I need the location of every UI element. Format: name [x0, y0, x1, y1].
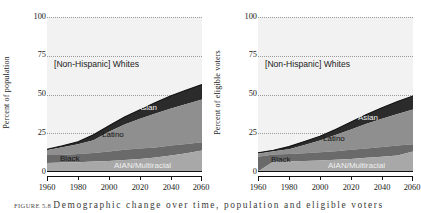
- x-axis-line-right: [258, 171, 413, 172]
- x-label-2000: 2000: [305, 183, 335, 192]
- x-tick-2000: [320, 176, 321, 180]
- y-axis-ticks-left: 100 75 50 25 0: [14, 0, 46, 200]
- stacked-areas-population: [47, 17, 202, 172]
- x-label-1960: 1960: [32, 183, 62, 192]
- x-label-1960: 1960: [243, 183, 273, 192]
- series-label-whites-eligible-voters: [Non-Hispanic] Whites: [265, 59, 350, 69]
- x-axis-bar: [47, 176, 202, 177]
- x-tick-2020: [351, 176, 352, 180]
- series-label-asian-population: Asian: [137, 103, 157, 112]
- plot-area-eligible-voters: [Non-Hispanic] Whites Asian Latino Black…: [258, 17, 413, 172]
- x-tick-2000: [109, 176, 110, 180]
- x-axis-left: [47, 176, 202, 182]
- x-axis-tick-labels-right: 1960 1980 2000 2020 2040 2060: [241, 183, 421, 195]
- x-label-2020: 2020: [336, 183, 366, 192]
- x-label-1980: 1980: [274, 183, 304, 192]
- x-axis-right: [258, 176, 413, 182]
- y-tick-25: 25: [231, 129, 257, 137]
- x-tick-2020: [140, 176, 141, 180]
- x-tick-1980: [78, 176, 79, 180]
- x-tick-2040: [171, 176, 172, 180]
- figure-caption-text: Demographic change over time, population…: [53, 200, 383, 210]
- y-axis-label-right: Percent of eligible voters: [213, 5, 225, 180]
- series-label-asian-eligible-voters: Asian: [358, 113, 378, 122]
- x-label-2040: 2040: [156, 183, 186, 192]
- x-tick-1980: [289, 176, 290, 180]
- y-axis-ticks-right: 100 75 50 25 0: [225, 0, 257, 200]
- x-axis-cap-start: [258, 176, 259, 181]
- x-tick-2040: [382, 176, 383, 180]
- stacked-areas-eligible-voters: [258, 17, 413, 172]
- plot-area-population: [Non-Hispanic] Whites Asian Latino Black…: [47, 17, 202, 172]
- y-tick-0: 0: [231, 168, 257, 176]
- x-axis-line-left: [47, 171, 202, 172]
- x-label-2040: 2040: [367, 183, 397, 192]
- y-tick-100: 100: [20, 13, 46, 21]
- series-label-aian-eligible-voters: AIAN/Multiracial: [328, 161, 385, 170]
- figure-container: Percent of population 100 75 50 25 0: [0, 0, 421, 213]
- x-axis-bar: [258, 176, 413, 177]
- series-label-aian-population: AIAN/Multiracial: [114, 161, 171, 170]
- x-axis-cap-end: [201, 176, 202, 181]
- y-tick-0: 0: [20, 168, 46, 176]
- chart-panel-population: Percent of population 100 75 50 25 0: [0, 0, 210, 200]
- y-tick-100: 100: [231, 13, 257, 21]
- x-axis-tick-labels-left: 1960 1980 2000 2020 2040 2060: [30, 183, 220, 195]
- y-tick-25: 25: [20, 129, 46, 137]
- figure-caption: FIGURE 5.8 Demographic change over time,…: [14, 200, 414, 213]
- x-label-1980: 1980: [63, 183, 93, 192]
- series-label-black-population: Black: [60, 154, 80, 163]
- y-tick-50: 50: [20, 90, 46, 98]
- series-label-whites-population: [Non-Hispanic] Whites: [54, 59, 139, 69]
- x-axis-cap-end: [412, 176, 413, 181]
- y-axis-label-left: Percent of population: [2, 5, 14, 180]
- series-label-latino-eligible-voters: Latino: [323, 134, 345, 143]
- y-tick-75: 75: [231, 51, 257, 59]
- y-tick-75: 75: [20, 51, 46, 59]
- y-tick-50: 50: [231, 90, 257, 98]
- series-label-black-eligible-voters: Black: [271, 155, 291, 164]
- series-label-latino-population: Latino: [102, 130, 124, 139]
- chart-panel-eligible-voters: Percent of eligible voters 100 75 50 25 …: [211, 0, 421, 200]
- x-label-2020: 2020: [125, 183, 155, 192]
- figure-caption-number: FIGURE 5.8: [14, 202, 51, 209]
- x-label-2000: 2000: [94, 183, 124, 192]
- x-axis-cap-start: [47, 176, 48, 181]
- x-label-2060: 2060: [397, 183, 421, 192]
